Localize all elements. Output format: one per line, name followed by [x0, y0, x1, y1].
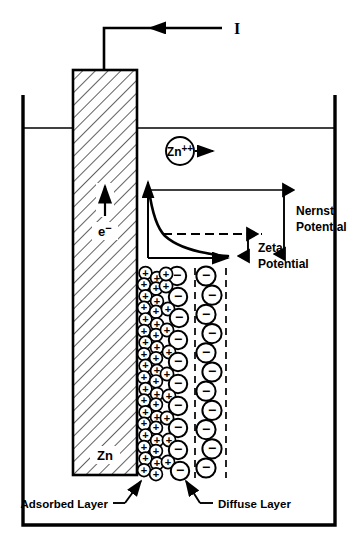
- svg-text:+: +: [142, 406, 148, 418]
- diffuse-negative-ion: −: [202, 401, 221, 420]
- nernst-label-line2: Potential: [296, 220, 347, 234]
- svg-text:+: +: [153, 352, 159, 364]
- svg-text:−: −: [208, 325, 216, 341]
- svg-text:+: +: [141, 278, 147, 290]
- diffuse-negative-ion: −: [171, 462, 189, 480]
- zinc-ion-charge: ++: [181, 143, 193, 154]
- svg-text:+: +: [141, 417, 147, 429]
- svg-text:+: +: [153, 445, 159, 457]
- ion-layer-group: ++++++++++++++++++++++++++++++++++++−+−+…: [138, 266, 222, 480]
- svg-text:−: −: [208, 287, 216, 303]
- diffuse-negative-ion: −: [202, 362, 221, 381]
- svg-text:−: −: [176, 462, 184, 478]
- svg-text:+: +: [165, 456, 171, 468]
- metal-label-group: Zn: [90, 446, 120, 464]
- diffuse-layer-callout: Diffuse Layer: [186, 481, 291, 510]
- svg-text:−: −: [208, 440, 216, 456]
- zeta-label-line1: Zeta: [258, 241, 283, 255]
- svg-text:+: +: [153, 398, 159, 410]
- svg-text:−: −: [202, 306, 210, 322]
- zinc-electrode: [73, 70, 137, 475]
- diffuse-negative-ion: −: [202, 324, 221, 343]
- svg-text:−: −: [202, 421, 210, 437]
- svg-text:−: −: [202, 344, 210, 360]
- adsorbed-positive-ion: +: [138, 464, 151, 477]
- current-lead-wire: [104, 28, 222, 70]
- diffuse-negative-ion: −: [202, 439, 221, 458]
- svg-text:+: +: [153, 375, 159, 387]
- diffuse-negative-ion: −: [196, 458, 215, 477]
- svg-text:−: −: [174, 375, 182, 391]
- nernst-label-line1: Nernst: [296, 204, 334, 218]
- diffuse-layer-label: Diffuse Layer: [218, 498, 291, 510]
- svg-text:+: +: [142, 429, 148, 441]
- svg-text:−: −: [174, 419, 182, 435]
- svg-text:−: −: [174, 288, 182, 304]
- svg-text:−: −: [174, 397, 182, 413]
- svg-text:+: +: [142, 359, 148, 371]
- svg-text:+: +: [142, 452, 148, 464]
- svg-text:+: +: [141, 394, 147, 406]
- svg-text:+: +: [141, 325, 147, 337]
- adsorbed-layer-label: Adsorbed Layer: [20, 498, 108, 510]
- zinc-ion-symbol: Zn: [167, 145, 182, 159]
- svg-text:+: +: [141, 464, 147, 476]
- svg-text:+: +: [164, 324, 170, 336]
- current-label: I: [234, 20, 240, 37]
- zeta-label-line2: Potential: [258, 257, 309, 271]
- svg-text:+: +: [164, 368, 170, 380]
- svg-text:+: +: [142, 336, 148, 348]
- diffuse-negative-ion: −: [170, 309, 188, 327]
- diffuse-negative-ion: −: [196, 420, 215, 439]
- svg-text:−: −: [174, 353, 182, 369]
- double-layer-diagram: I Zn e− Zn++: [0, 0, 357, 555]
- electrical-double-layer: ++++++++++++++++++++++++++++++++++++−+−+…: [138, 266, 226, 480]
- svg-text:+: +: [163, 268, 169, 280]
- svg-text:−: −: [202, 267, 210, 283]
- svg-text:+: +: [164, 412, 170, 424]
- diffuse-positive-ion: +: [159, 267, 172, 280]
- diffuse-negative-ion: −: [196, 266, 215, 285]
- svg-text:+: +: [153, 305, 159, 317]
- svg-text:+: +: [153, 329, 159, 341]
- svg-text:−: −: [202, 459, 210, 475]
- svg-text:−: −: [208, 402, 216, 418]
- diffuse-negative-ion: −: [196, 343, 215, 362]
- nernst-potential-measure: Nernst Potential: [284, 190, 347, 254]
- svg-text:+: +: [142, 267, 148, 279]
- zinc-ion-group: Zn++: [166, 137, 213, 165]
- svg-text:−: −: [175, 309, 183, 325]
- svg-text:+: +: [141, 441, 147, 453]
- svg-text:−: −: [208, 363, 216, 379]
- svg-text:−: −: [174, 331, 182, 347]
- adsorbed-layer-callout: Adsorbed Layer: [20, 481, 141, 510]
- diffuse-negative-ion: −: [196, 382, 215, 401]
- svg-text:+: +: [142, 290, 148, 302]
- svg-text:+: +: [153, 421, 159, 433]
- svg-text:+: +: [141, 301, 147, 313]
- diffuse-negative-ion: −: [196, 305, 215, 324]
- svg-text:+: +: [141, 371, 147, 383]
- adsorbed-positive-ion: +: [150, 468, 163, 481]
- metal-label: Zn: [97, 448, 113, 463]
- svg-text:+: +: [153, 468, 159, 480]
- electron-symbol: e: [98, 224, 105, 239]
- svg-text:+: +: [153, 282, 159, 294]
- potential-decay-curve: [149, 190, 228, 256]
- svg-text:+: +: [142, 383, 148, 395]
- svg-text:+: +: [142, 313, 148, 325]
- svg-text:−: −: [174, 441, 182, 457]
- svg-text:−: −: [202, 383, 210, 399]
- zeta-potential-measure: Zeta Potential: [248, 234, 309, 271]
- electron-charge: −: [105, 222, 111, 234]
- diffuse-negative-ion: −: [202, 286, 221, 305]
- svg-text:−: −: [173, 267, 181, 283]
- diagram-canvas: I Zn e− Zn++: [0, 0, 357, 555]
- svg-text:+: +: [141, 348, 147, 360]
